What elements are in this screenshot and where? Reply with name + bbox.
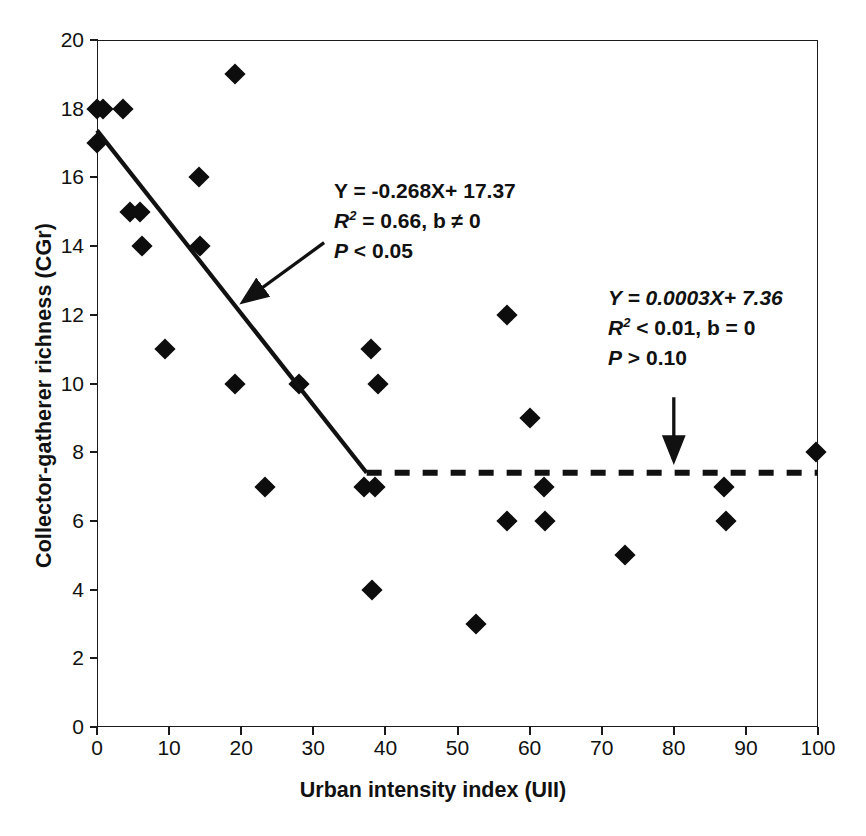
y-tick-mark (90, 520, 98, 522)
left-annotation-p-value: P < 0.05 (334, 236, 516, 266)
x-tick-mark (601, 727, 603, 735)
y-tick-label: 20 (38, 28, 84, 52)
x-tick-mark (312, 727, 314, 735)
x-tick-mark (745, 727, 747, 735)
right-annotation-equation: Y = 0.0003X+ 7.36 (608, 283, 783, 313)
x-tick-mark (240, 727, 242, 735)
y-tick-mark (90, 176, 98, 178)
x-tick-label: 60 (518, 736, 541, 760)
x-tick-label: 0 (91, 736, 103, 760)
x-tick-label: 10 (157, 736, 180, 760)
x-tick-label: 40 (374, 736, 397, 760)
y-tick-mark (90, 245, 98, 247)
x-tick-mark (384, 727, 386, 735)
scatter-plot-figure: 02468101214161820 0102030405060708090100… (0, 0, 866, 836)
right-annotation: Y = 0.0003X+ 7.36 R2 < 0.01, b = 0 P > 0… (608, 283, 783, 372)
right-annotation-p-value: P > 0.10 (608, 343, 783, 373)
x-tick-label: 70 (590, 736, 613, 760)
y-tick-mark (90, 451, 98, 453)
x-axis-title: Urban intensity index (UII) (0, 778, 866, 803)
x-tick-label: 80 (662, 736, 685, 760)
x-tick-mark (673, 727, 675, 735)
x-tick-mark (817, 727, 819, 735)
y-axis-title: Collector-gatherer richness (CGr) (32, 76, 57, 716)
right-annotation-r-squared: R2 < 0.01, b = 0 (608, 313, 783, 343)
y-tick-mark (90, 589, 98, 591)
x-tick-label: 90 (734, 736, 757, 760)
y-tick-mark (90, 39, 98, 41)
x-tick-mark (96, 727, 98, 735)
y-tick-mark (90, 657, 98, 659)
x-tick-label: 50 (446, 736, 469, 760)
x-tick-mark (457, 727, 459, 735)
x-tick-label: 30 (302, 736, 325, 760)
left-annotation-r-squared: R2 = 0.66, b ≠ 0 (334, 206, 516, 236)
x-tick-mark (168, 727, 170, 735)
y-tick-label: 0 (38, 715, 84, 739)
x-tick-label: 20 (230, 736, 253, 760)
y-tick-mark (90, 314, 98, 316)
x-tick-mark (529, 727, 531, 735)
left-annotation: Y = -0.268X+ 17.37 R2 = 0.66, b ≠ 0 P < … (334, 176, 516, 265)
plot-area (97, 40, 818, 727)
left-annotation-equation: Y = -0.268X+ 17.37 (334, 176, 516, 206)
y-tick-mark (90, 383, 98, 385)
x-tick-label: 100 (800, 736, 835, 760)
